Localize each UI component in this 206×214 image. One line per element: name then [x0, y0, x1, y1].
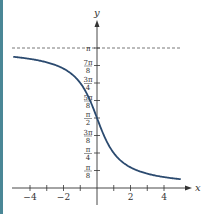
y-tick-numerator: π	[86, 146, 91, 154]
y-tick-denominator: 8	[86, 102, 90, 110]
y-tick-denominator: 4	[86, 84, 91, 92]
y-tick-numerator: 3π	[83, 129, 92, 137]
arccot-chart: x y −4−224 π8π43π8π25π83π47π8 π	[0, 0, 206, 214]
y-tick-numerator: 7π	[83, 59, 92, 67]
y-ticks: π8π43π8π25π83π47π8	[83, 48, 100, 180]
x-axis-arrow-icon	[185, 186, 192, 191]
y-tick-denominator: 4	[86, 154, 91, 162]
x-tick-label: 4	[161, 192, 167, 202]
x-tick-label: −2	[57, 192, 70, 202]
y-tick-denominator: 8	[86, 172, 90, 180]
y-axis-label: y	[93, 7, 100, 18]
x-tick-label: −4	[23, 192, 37, 202]
x-axis-label: x	[195, 182, 201, 193]
x-tick-label: 2	[128, 192, 134, 202]
y-tick-numerator: 3π	[83, 76, 92, 84]
y-tick-denominator: 8	[86, 137, 90, 145]
y-tick-numerator: π	[86, 111, 91, 119]
y-tick-numerator: π	[86, 164, 91, 172]
y-tick-denominator: 2	[86, 119, 90, 127]
pi-label: π	[86, 45, 91, 53]
y-axis-arrow-icon	[95, 20, 100, 27]
y-tick-denominator: 8	[86, 67, 90, 75]
